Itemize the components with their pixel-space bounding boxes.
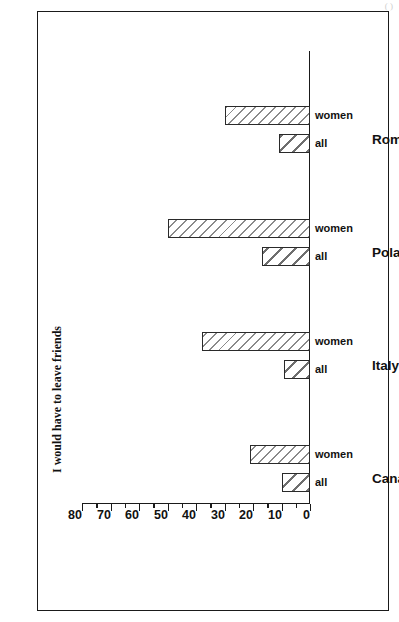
axis-tick-major — [196, 504, 197, 511]
axis-tick-label: 30 — [211, 508, 225, 522]
axis-tick-label: 50 — [154, 508, 168, 522]
bar-poland-all — [262, 247, 310, 266]
figure-frame: I would have to leave friends 0102030405… — [37, 11, 389, 611]
axis-tick-label: 70 — [97, 508, 111, 522]
bar-canada-all — [282, 473, 311, 492]
axis-tick-label: 80 — [68, 508, 82, 522]
axis-tick-major — [310, 504, 311, 511]
axis-tick-label: 10 — [268, 508, 282, 522]
axis-tick-major — [253, 504, 254, 511]
bar-romania-women — [225, 106, 311, 125]
series-label-women: women — [315, 109, 353, 121]
figure-page: ( ) Fig. 1 Reasons for Refusing Promotio… — [0, 0, 399, 622]
axis-tick-minor — [153, 504, 154, 508]
page-corner-mark: ( ) — [385, 1, 393, 11]
axis-tick-minor — [182, 504, 183, 508]
chart-title: I would have to leave friends — [50, 326, 65, 473]
axis-tick-major — [139, 504, 140, 511]
axis-tick-label: 0 — [303, 508, 310, 522]
axis-tick-minor — [125, 504, 126, 508]
bar-chart: I would have to leave friends 0102030405… — [48, 23, 378, 599]
series-label-all: all — [315, 250, 327, 262]
category-label-romania: Romania — [372, 132, 399, 147]
axis-tick-minor — [239, 504, 240, 508]
category-label-italy: Italy — [372, 358, 399, 373]
category-label-poland: Poland — [372, 245, 399, 260]
axis-tick-major — [82, 504, 83, 511]
series-label-women: women — [315, 448, 353, 460]
bar-canada-women — [250, 445, 310, 464]
bar-italy-all — [284, 360, 310, 379]
series-label-all: all — [315, 476, 327, 488]
plot-area: allwomenCanadaallwomenItalyallwomenPolan… — [82, 51, 310, 503]
axis-tick-minor — [96, 504, 97, 508]
axis-tick-label: 40 — [182, 508, 196, 522]
axis-tick-minor — [296, 504, 297, 508]
bar-poland-women — [168, 219, 311, 238]
bar-italy-women — [202, 332, 310, 351]
series-label-women: women — [315, 335, 353, 347]
axis-tick-minor — [210, 504, 211, 508]
axis-tick-label: 60 — [125, 508, 139, 522]
axis-tick-minor — [267, 504, 268, 508]
series-label-women: women — [315, 222, 353, 234]
bar-romania-all — [279, 134, 310, 153]
axis-tick-label: 20 — [239, 508, 253, 522]
series-label-all: all — [315, 137, 327, 149]
chart-rotation-wrapper: I would have to leave friends 0102030405… — [48, 23, 378, 599]
category-label-canada: Canada — [372, 471, 399, 486]
series-label-all: all — [315, 363, 327, 375]
